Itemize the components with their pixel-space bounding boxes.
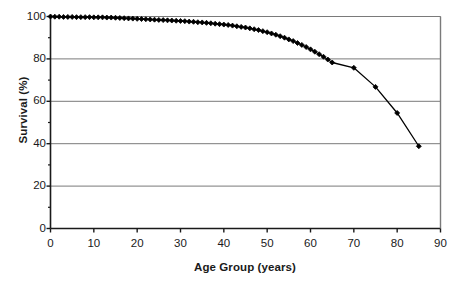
gridlines [51, 17, 441, 187]
data-point-marker [226, 22, 231, 27]
data-point-marker [247, 26, 252, 31]
chart-figure: Survival (%) Age Group (years) 020406080… [0, 0, 457, 285]
data-point-marker [256, 28, 261, 33]
axis-frame [51, 17, 441, 229]
series-line [51, 17, 419, 147]
data-point-marker [252, 27, 257, 32]
data-point-marker [234, 24, 239, 29]
plot-area [0, 0, 457, 285]
data-point-marker [239, 24, 244, 29]
data-point-marker [308, 47, 313, 52]
data-point-marker [260, 29, 265, 34]
axis-ticks [47, 17, 441, 233]
data-point-marker [243, 25, 248, 30]
data-point-marker [230, 23, 235, 28]
data-series-survival [48, 14, 421, 149]
